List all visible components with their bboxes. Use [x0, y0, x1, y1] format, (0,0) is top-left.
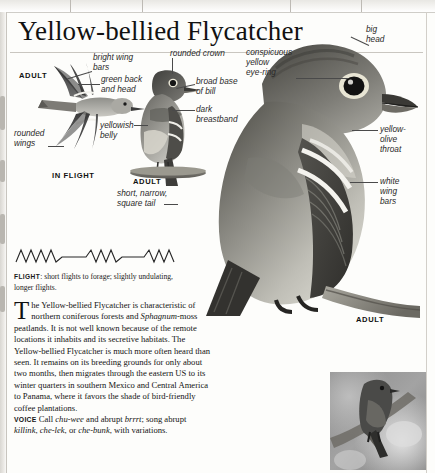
voice-text-5: , or	[65, 425, 79, 435]
voice-call-chu-wee: chu-wee	[55, 414, 84, 424]
caption-adult-perched: ADULT	[133, 177, 161, 186]
scan-artifact	[0, 96, 5, 130]
voice-call-killink: killink	[14, 425, 35, 435]
label-yellowish-belly: yellowish belly	[100, 120, 134, 140]
flight-description: FLIGHT: short flights to forage; slightl…	[14, 272, 189, 293]
voice-call-che-lek: che-lek	[40, 425, 65, 435]
description-part-2: -moss peatlands. It is not well known be…	[14, 311, 210, 412]
leader-conspicuous-yellow-eye-ring	[296, 78, 348, 79]
leader-white-wing-bars	[350, 182, 378, 183]
leader-dark-breastband	[172, 110, 195, 111]
label-white-wing-bars: white wing bars	[380, 176, 399, 206]
page-left-border	[6, 12, 7, 473]
flight-pattern-diagram	[14, 246, 179, 268]
voice-text-6: , with variations.	[110, 425, 168, 435]
leader-rounded-crown	[172, 58, 173, 74]
voice-call-brrrt: brrrt	[125, 414, 142, 424]
label-rounded-wings: rounded wings	[14, 128, 44, 148]
label-conspicuous-yellow-eye-ring: conspicuous yellow eye-ring	[246, 47, 292, 77]
leader-green-back-head	[78, 84, 100, 85]
voice-keyword: VOICE	[14, 416, 37, 423]
voice-call-che-bunk: che-bunk	[78, 425, 110, 435]
field-guide-page: Yellow-bellied Flycatcher	[0, 0, 435, 473]
voice-text-3: ; song abrupt	[141, 414, 186, 424]
genus-sphagnum: Sphagnum	[141, 311, 177, 321]
caption-adult-flight: ADULT	[19, 71, 47, 80]
scan-artifact	[0, 214, 5, 244]
leader-short-narrow-square-tail	[164, 204, 178, 205]
voice-text-1: Call	[37, 414, 56, 424]
scan-artifact	[0, 160, 5, 182]
leader-yellow-olive-throat	[352, 130, 378, 131]
drop-cap: T	[14, 300, 31, 321]
voice-description: VOICE Call chu-wee and abrupt brrrt; son…	[14, 414, 212, 437]
voice-text-2: and abrupt	[84, 414, 125, 424]
caption-in-flight: IN FLIGHT	[52, 171, 95, 180]
scan-top-edge	[0, 0, 435, 13]
caption-adult-main: ADULT	[356, 315, 384, 324]
species-description: The Yellow-bellied Flycatcher is charact…	[14, 300, 212, 437]
leader-rounded-wings	[48, 146, 64, 147]
scan-artifact	[0, 286, 5, 312]
leader-yellowish-belly	[134, 125, 148, 126]
bird-illustration-main-adult	[206, 28, 421, 318]
description-paragraph: The Yellow-bellied Flycatcher is charact…	[14, 300, 212, 414]
label-short-narrow-square-tail: short, narrow, square tail	[117, 188, 167, 208]
page-right-border	[426, 12, 427, 473]
label-yellow-olive-throat: yellow- olive throat	[380, 124, 406, 154]
flight-keyword: FLIGHT	[14, 273, 40, 280]
label-big-head: big head	[366, 24, 384, 44]
bird-photograph-inset	[330, 372, 426, 470]
